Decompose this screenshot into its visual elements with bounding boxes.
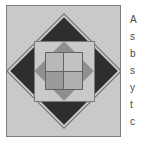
inner-grid-square	[45, 52, 83, 90]
grid-cell-top-left	[46, 53, 64, 71]
figure-root: A s b s y t c	[0, 0, 147, 146]
side-text-line: A	[130, 11, 147, 28]
side-text-column: A s b s y t c	[130, 11, 147, 130]
figure-panel	[6, 5, 121, 137]
grid-cell-top-right	[64, 53, 82, 71]
side-text-line: t	[130, 96, 147, 113]
side-text-line: y	[130, 79, 147, 96]
side-text-line: b	[130, 45, 147, 62]
side-text-line: c	[130, 113, 147, 130]
side-text-line: s	[130, 28, 147, 45]
side-text-line: s	[130, 62, 147, 79]
figure-panel-inner	[7, 6, 120, 136]
grid-cell-bottom-right	[64, 72, 82, 90]
grid-cell-bottom-left	[46, 72, 64, 90]
